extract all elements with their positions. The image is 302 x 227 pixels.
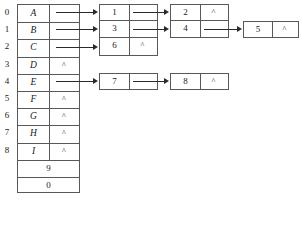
table-row[interactable]: C	[18, 39, 79, 57]
list-node-6[interactable]: 6 ^	[99, 38, 158, 55]
node-value: 1	[100, 5, 130, 20]
node-pointer-null: ^	[128, 38, 157, 54]
vertex-key: A	[18, 5, 50, 22]
row-index-3: 3	[0, 56, 14, 73]
arrow-head-e-to-7	[93, 78, 98, 84]
arrow-line-a-to-1	[56, 12, 93, 13]
vertex-pointer-null: ^	[49, 143, 79, 160]
arrow-line-7-to-8	[133, 81, 164, 82]
vertex-pointer-null: ^	[49, 108, 79, 125]
vertex-key: D	[18, 57, 50, 74]
node-value: 2	[171, 5, 201, 20]
arrow-line-3-to-4	[133, 29, 164, 30]
arrow-line-b-to-3	[56, 29, 93, 30]
vertex-key: F	[18, 91, 50, 108]
vertex-key: I	[18, 143, 50, 160]
row-index-7: 7	[0, 124, 14, 141]
node-value: 3	[100, 21, 130, 37]
node-pointer-null: ^	[271, 22, 298, 37]
vertex-pointer	[49, 74, 79, 91]
table-row[interactable]: A	[18, 5, 79, 23]
vertex-pointer	[49, 5, 79, 22]
table-footer-row[interactable]: 9	[18, 160, 79, 178]
row-index-0: 0	[0, 4, 14, 21]
vertex-key: B	[18, 22, 50, 39]
table-row[interactable]: D ^	[18, 57, 79, 75]
arrow-head-c-to-6	[93, 44, 98, 50]
adjacency-list-diagram: 0 1 2 3 4 5 6 7 8 A B C D ^ E F ^	[0, 0, 302, 227]
list-node-8[interactable]: 8 ^	[170, 73, 229, 90]
row-index-2: 2	[0, 38, 14, 55]
vertex-table: A B C D ^ E F ^ G ^ H ^	[17, 4, 80, 193]
node-value: 5	[244, 22, 273, 37]
row-index-1: 1	[0, 21, 14, 38]
vertex-key: G	[18, 108, 50, 125]
table-row[interactable]: E	[18, 74, 79, 92]
arrow-head-1-to-2	[164, 9, 169, 15]
node-value: 7	[100, 74, 130, 89]
row-index-5: 5	[0, 90, 14, 107]
table-row[interactable]: F ^	[18, 91, 79, 109]
table-row[interactable]: G ^	[18, 108, 79, 126]
table-footer-row[interactable]: 0	[18, 177, 79, 194]
arrow-head-7-to-8	[164, 78, 169, 84]
arrow-line-c-to-6	[56, 47, 93, 48]
arrow-line-1-to-2	[133, 12, 164, 13]
node-value: 8	[171, 74, 201, 89]
vertex-pointer	[49, 39, 79, 56]
row-index-4: 4	[0, 73, 14, 90]
arrow-head-3-to-4	[164, 26, 169, 32]
vertex-pointer-null: ^	[49, 125, 79, 142]
vertex-key: C	[18, 39, 50, 56]
table-row[interactable]: I ^	[18, 143, 79, 161]
list-node-5[interactable]: 5 ^	[243, 21, 299, 38]
arrow-head-a-to-1	[93, 9, 98, 15]
vertex-key: E	[18, 74, 50, 91]
vertex-key: H	[18, 125, 50, 142]
arrow-line-e-to-7	[56, 81, 93, 82]
table-row[interactable]: H ^	[18, 125, 79, 143]
row-index-8: 8	[0, 142, 14, 159]
vertex-pointer	[49, 22, 79, 39]
row-index-6: 6	[0, 107, 14, 124]
arrow-line-4-to-5	[204, 29, 237, 30]
arrow-head-b-to-3	[93, 26, 98, 32]
table-row[interactable]: B	[18, 22, 79, 40]
node-value: 4	[171, 21, 201, 37]
vertex-pointer-null: ^	[49, 91, 79, 108]
arrow-head-4-to-5	[237, 26, 242, 32]
node-value: 6	[100, 38, 130, 54]
node-pointer-null: ^	[199, 5, 228, 20]
list-node-2[interactable]: 2 ^	[170, 4, 229, 21]
vertex-pointer-null: ^	[49, 57, 79, 74]
node-pointer-null: ^	[199, 74, 228, 89]
